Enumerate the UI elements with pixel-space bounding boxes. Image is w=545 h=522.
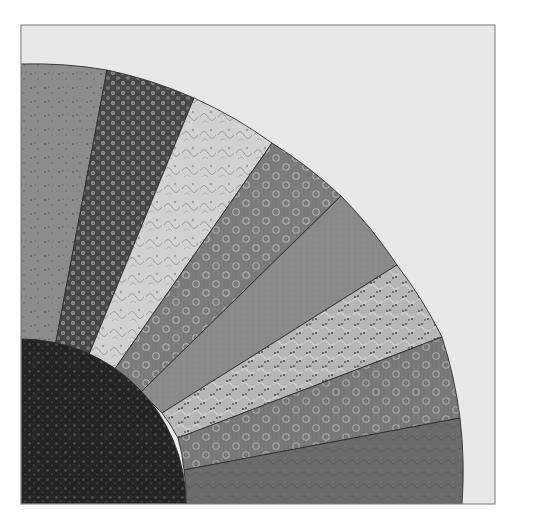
- quilt-block-image: [0, 0, 545, 522]
